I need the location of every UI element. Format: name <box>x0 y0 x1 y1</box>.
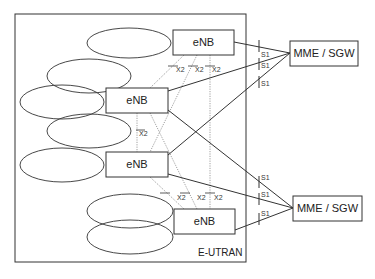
cell-coverage-group <box>20 28 173 254</box>
s1-label: S1 <box>261 174 270 181</box>
cell-ellipse <box>47 114 131 148</box>
s1-link-enb3-mme2 <box>168 174 293 208</box>
s1-label: S1 <box>261 191 270 198</box>
s1-link-enb2-mme1 <box>168 53 290 91</box>
x2-label: X2 <box>177 194 186 201</box>
mme-sgw-label-2: MME / SGW <box>293 202 362 214</box>
enb-label-1: eNB <box>173 36 234 48</box>
x2-label: X2 <box>212 66 221 73</box>
x2-label: X2 <box>197 194 206 201</box>
mme-sgw-label-1: MME / SGW <box>290 47 358 59</box>
x2-label: X2 <box>139 130 148 137</box>
cell-ellipse <box>20 148 104 182</box>
e-utran-label: E-UTRAN <box>198 247 242 258</box>
s1-label: S1 <box>261 80 270 87</box>
enb-label-2: eNB <box>106 94 168 106</box>
x2-label: X2 <box>195 66 204 73</box>
x2-label: X2 <box>214 194 223 201</box>
s1-label: S1 <box>261 210 270 217</box>
cell-ellipse <box>87 194 173 228</box>
cell-ellipse <box>87 220 173 254</box>
s1-links <box>168 42 293 230</box>
cell-ellipse <box>87 28 171 58</box>
enb-label-4: eNB <box>174 215 235 227</box>
s1-label: S1 <box>261 51 270 58</box>
x2-label: X2 <box>176 66 185 73</box>
s1-link-enb3-mme1 <box>168 53 290 155</box>
s1-label: S1 <box>261 62 270 69</box>
enb-label-3: eNB <box>106 158 168 170</box>
